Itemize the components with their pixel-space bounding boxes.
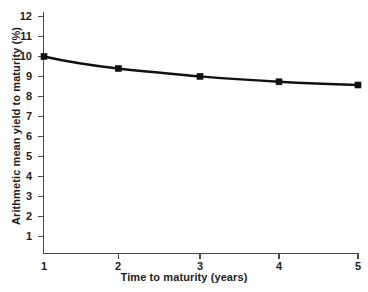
data-point-4 [276,79,282,85]
chart-canvas [0,0,368,292]
x-tick-marks [118,254,358,260]
data-point-5 [355,82,361,88]
data-point-2 [115,66,121,72]
yield-curve-chart: 12 11 10 9 8 7 6 5 4 3 2 1 1 2 3 4 5 Tim… [0,0,368,292]
series-line-yield [44,57,358,86]
data-point-1 [41,54,47,60]
x-axis-title: Time to maturity (years) [0,271,368,283]
y-tick-marks [38,16,44,237]
y-axis-title: Arithmetic mean yield to maturity (%) [10,6,22,246]
data-point-3 [197,73,203,79]
